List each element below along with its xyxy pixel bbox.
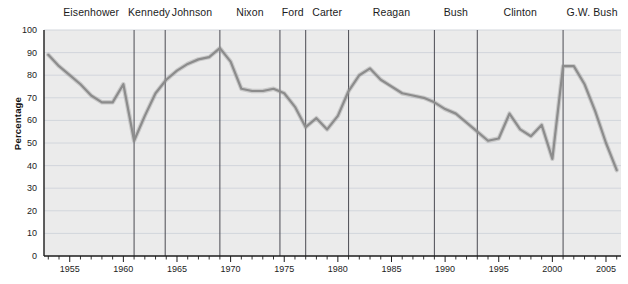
trust-in-government-chart: EisenhowerKennedyJohnsonNixonFordCarterR… <box>0 0 628 284</box>
plot-area <box>0 0 628 284</box>
axis-ticks <box>48 256 616 262</box>
